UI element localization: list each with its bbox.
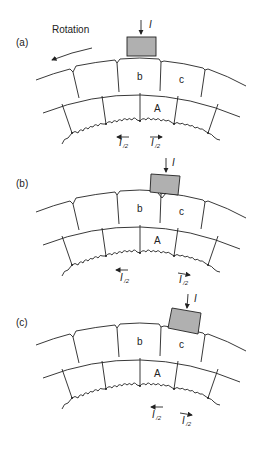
current-label: I xyxy=(194,293,197,304)
commutation-diagram: (a) Rotation I b c A I /2 I /2 (b) I b c… xyxy=(0,0,258,450)
panel-b: (b) I b c A I /2 I /2 xyxy=(16,157,246,286)
half-current-left-sub: /2 xyxy=(155,415,162,421)
half-current-right-symbol: I xyxy=(151,137,154,148)
half-current-right-sub: /2 xyxy=(185,421,192,427)
rotation-label: Rotation xyxy=(52,24,89,35)
brush xyxy=(168,308,201,334)
panel-c-label: (c) xyxy=(16,317,28,328)
half-current-right-sub: /2 xyxy=(154,143,161,149)
half-current-left-sub: /2 xyxy=(122,143,129,149)
half-current-right-symbol: I xyxy=(182,415,185,426)
half-current-left-symbol: I xyxy=(120,272,123,283)
half-current-left-symbol: I xyxy=(152,409,155,420)
brush xyxy=(127,37,156,56)
brush xyxy=(150,174,180,195)
segment-c-label: c xyxy=(179,206,184,217)
half-current-left-sub: /2 xyxy=(123,278,130,284)
panel-b-label: (b) xyxy=(16,178,28,189)
panel-a: (a) Rotation I b c A I /2 I /2 xyxy=(16,19,246,149)
current-label: I xyxy=(172,157,175,168)
half-current-left-symbol: I xyxy=(119,137,122,148)
segment-b-label: b xyxy=(137,71,143,82)
segment-b-label: b xyxy=(137,336,143,347)
panel-c: (c) I b c A I /2 I /2 xyxy=(16,293,246,427)
segment-A-label: A xyxy=(154,235,161,246)
segment-c-label: c xyxy=(179,339,184,350)
half-current-right-symbol: I xyxy=(179,274,182,285)
segment-b-label: b xyxy=(137,203,143,214)
segment-A-label: A xyxy=(154,103,161,114)
current-label: I xyxy=(149,19,152,30)
segment-A-label: A xyxy=(154,368,161,379)
half-current-right-sub: /2 xyxy=(182,280,189,286)
segment-c-label: c xyxy=(179,74,184,85)
current-in-arrow-icon xyxy=(187,294,188,308)
panel-a-label: (a) xyxy=(16,37,28,48)
rotation-arrow-icon xyxy=(52,48,92,60)
